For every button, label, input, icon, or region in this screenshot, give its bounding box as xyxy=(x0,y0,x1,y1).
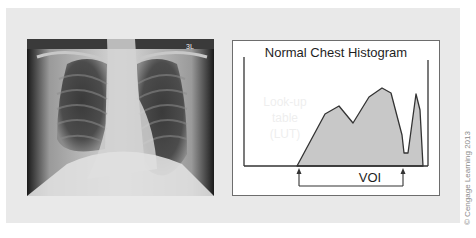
histogram-chart: Look-up table (LUT) xyxy=(0,0,476,238)
voi-arrow-left-icon xyxy=(297,168,302,174)
histogram-title: Normal Chest Histogram xyxy=(232,45,440,60)
copyright-credit: © Cengage Learning 2013 xyxy=(463,131,472,225)
voi-arrow-right-icon xyxy=(401,168,406,174)
svg-text:table: table xyxy=(272,111,298,125)
ghost-lut-text: Look-up table (LUT) xyxy=(263,95,307,141)
svg-text:(LUT): (LUT) xyxy=(270,127,301,141)
histogram-area xyxy=(297,88,423,166)
voi-label: VOI xyxy=(350,170,390,185)
svg-text:Look-up: Look-up xyxy=(263,95,307,109)
